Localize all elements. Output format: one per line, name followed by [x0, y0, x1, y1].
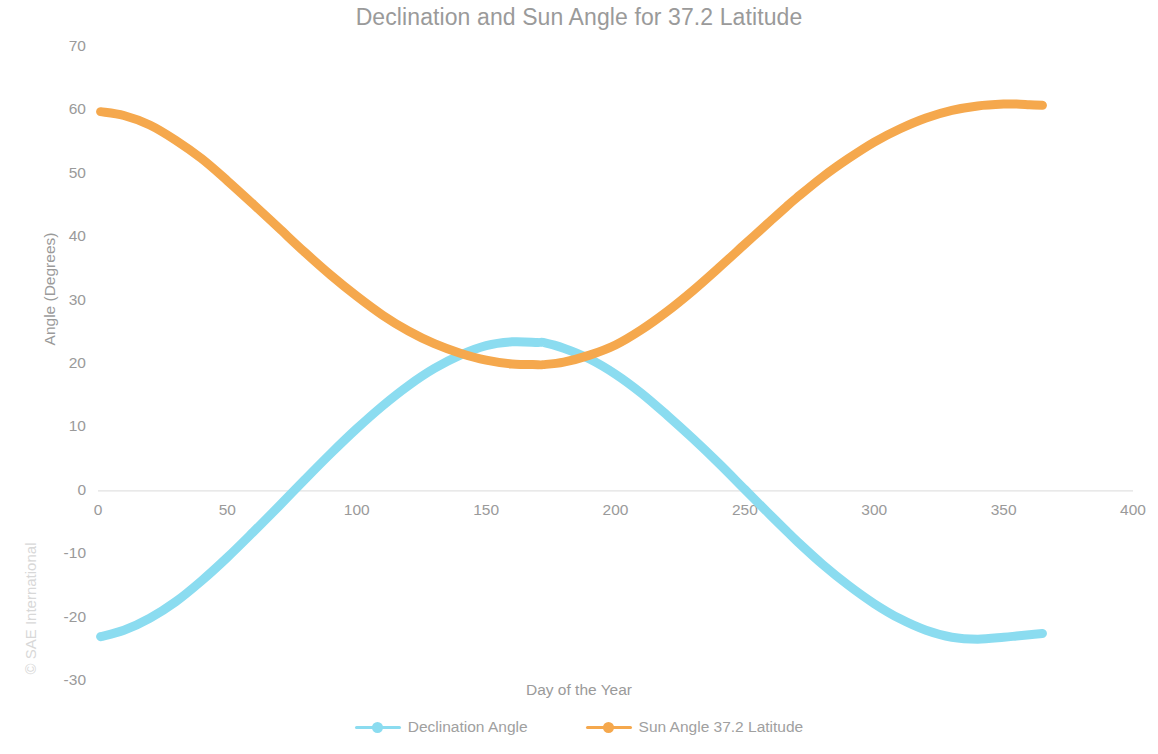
legend-label: Declination Angle — [408, 718, 528, 736]
chart-container: Declination and Sun Angle for 37.2 Latit… — [0, 0, 1158, 754]
series-sun-angle — [101, 104, 1043, 365]
legend-label: Sun Angle 37.2 Latitude — [639, 718, 804, 736]
legend-marker-icon — [586, 720, 632, 734]
legend-item-declination-angle[interactable]: Declination Angle — [355, 718, 528, 736]
chart-legend: Declination AngleSun Angle 37.2 Latitude — [0, 718, 1158, 736]
legend-marker-icon — [355, 720, 401, 734]
legend-item-sun-angle[interactable]: Sun Angle 37.2 Latitude — [586, 718, 804, 736]
plot-area — [0, 0, 1158, 754]
series-line — [101, 104, 1043, 365]
